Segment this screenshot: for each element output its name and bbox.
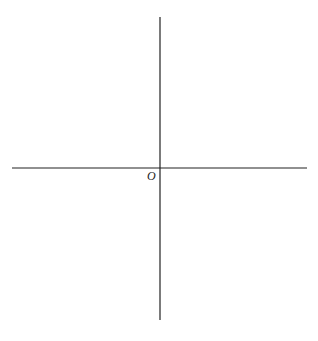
- coordinate-plane: [0, 0, 318, 341]
- origin-label: O: [147, 169, 156, 183]
